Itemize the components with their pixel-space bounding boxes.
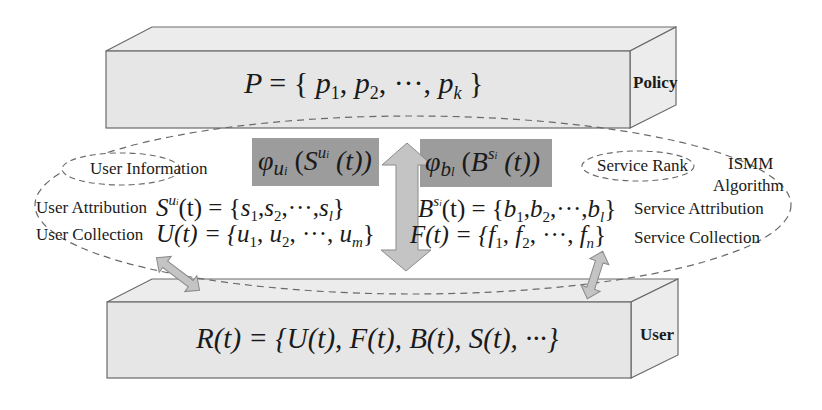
attr-lhs-sup: u — [169, 192, 177, 208]
attr-item: s — [319, 194, 329, 221]
collection-item: u — [270, 220, 283, 247]
user-collection-formula: U(t) = {u1, u2, ···, um} — [156, 221, 375, 250]
policy-label: Policy — [633, 74, 677, 91]
attr-lhs: B — [418, 195, 433, 222]
policy-item-sub: k — [454, 83, 462, 103]
collection-item: u — [340, 220, 353, 247]
attr-item: b — [588, 195, 601, 222]
close-brace: } — [604, 195, 616, 222]
service-rank-label: Service Rank — [597, 157, 688, 174]
arg-supsub: i — [326, 149, 329, 160]
close-brace: } — [594, 221, 606, 248]
user-layer-formula: R(t) = {U(t), F(t), B(t), S(t), ···} — [196, 324, 558, 353]
policy-item: p — [439, 66, 454, 99]
ellipsis: ··· — [302, 220, 327, 247]
phi-sub: b — [441, 157, 452, 181]
close-brace: } — [363, 220, 375, 247]
service-attribution-label: Service Attribution — [634, 200, 764, 217]
collection-item: f — [580, 221, 587, 248]
function-arg: S — [304, 145, 318, 176]
function-tail: (t)) — [336, 145, 372, 176]
ellipsis: ··· — [288, 194, 313, 221]
phi-symbol: φ — [258, 145, 274, 176]
collection-item-sub: 2 — [522, 235, 530, 251]
collection-item-sub: n — [587, 235, 595, 251]
service-collection-label: Service Collection — [634, 229, 760, 246]
open-brace: { — [294, 66, 308, 99]
user-attribution-label: User Attribution — [36, 199, 147, 216]
attr-item: s — [264, 194, 274, 221]
policy-item: p — [316, 66, 331, 99]
policy-item: p — [355, 66, 370, 99]
ellipsis: ··· — [542, 221, 567, 248]
user-function-formula: φui (Sui (t)) — [258, 145, 372, 179]
phi-sub: u — [274, 156, 285, 180]
user-collection-label: User Collection — [36, 226, 143, 243]
ellipsis: ··· — [394, 66, 424, 99]
collection-item-sub: m — [352, 234, 363, 250]
policy-item-sub: 1 — [331, 83, 340, 103]
collection-item: u — [237, 220, 250, 247]
close-brace: } — [333, 194, 345, 221]
phi-subsub: l — [451, 165, 455, 179]
attr-item: b — [530, 195, 543, 222]
algorithm-label: Algorithm — [713, 177, 784, 194]
collection-lhs: U(t) = { — [156, 220, 237, 247]
phi-symbol: φ — [425, 146, 441, 177]
attr-item: s — [241, 194, 251, 221]
function-tail: (t)) — [504, 146, 540, 177]
attr-mid: (t) = { — [442, 195, 504, 222]
arg-supsub: i — [494, 150, 497, 161]
attr-mid: (t) = { — [179, 194, 241, 221]
equals-sign: = — [269, 66, 286, 99]
close-brace: } — [469, 66, 483, 99]
arg-sup: u — [318, 143, 326, 162]
service-collection-formula: F(t) = {f1, f2, ···, fn} — [410, 222, 606, 251]
service-function-formula: φbl (Bsi (t)) — [425, 146, 540, 180]
ellipsis: ··· — [556, 195, 581, 222]
phi-subsub: i — [284, 164, 288, 178]
collection-item-sub: 1 — [495, 235, 503, 251]
collection-lhs: F(t) = { — [410, 221, 488, 248]
policy-formula: P = { p1, p2, ···, pk } — [244, 68, 484, 102]
policy-box-top — [106, 27, 676, 51]
ismm-label: ISMM — [728, 155, 773, 172]
policy-symbol: P — [244, 66, 262, 99]
function-arg: B — [471, 146, 488, 177]
collection-item-sub: 2 — [282, 234, 290, 250]
attr-item: b — [504, 195, 517, 222]
user-information-label: User Information — [90, 160, 208, 177]
attr-lhs: S — [156, 194, 169, 221]
policy-item-sub: 2 — [370, 83, 379, 103]
user-label: User — [640, 326, 674, 343]
collection-item-sub: 1 — [250, 234, 258, 250]
